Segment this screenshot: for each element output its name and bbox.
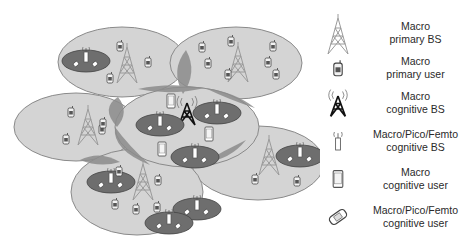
macro-cognitive-bs-icon: [318, 86, 358, 120]
legend-item: Macro/Pico/Femtocognitive user: [318, 204, 473, 230]
macro-primary-bs-icon: [318, 12, 358, 54]
legend-item: Macroprimary user: [318, 55, 473, 81]
legend: Macroprimary BS Macroprimary user Macroc…: [318, 0, 473, 241]
macro-cognitive-user-icon: [158, 142, 166, 156]
legend-item: Macro/Pico/Femtocognitive BS: [318, 128, 473, 154]
legend-item: Macrocognitive BS: [318, 86, 473, 120]
macro-primary-user-icon: [318, 57, 358, 79]
small-cell-cognitive-user-icon: [318, 208, 358, 226]
macro-cognitive-user-icon: [318, 169, 358, 189]
heterogeneous-network-diagram: [0, 0, 320, 241]
macro-cognitive-user-icon: [167, 94, 175, 108]
legend-item: Macrocognitive user: [318, 166, 473, 192]
small-cell-cognitive-bs-icon: [318, 130, 358, 152]
macro-cognitive-user-icon: [205, 127, 213, 141]
legend-item: Macroprimary BS: [318, 12, 473, 54]
